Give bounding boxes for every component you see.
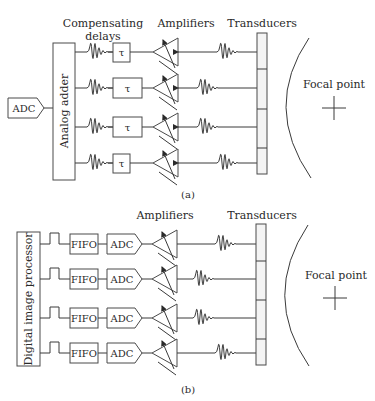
pulse-wave — [83, 118, 115, 133]
channel-row-a-1: τ — [75, 38, 257, 74]
pulse-wave — [211, 344, 243, 359]
delay-symbol: τ — [119, 158, 125, 169]
pulse-signal-icon — [40, 342, 70, 353]
panel-b: Amplifiers Transducers Focal point Digit… — [17, 209, 368, 395]
fifo-label: FIFO — [71, 348, 97, 359]
pulse-wave — [83, 154, 115, 169]
adc-label: ADC — [110, 274, 134, 285]
adc-label: ADC — [110, 239, 134, 250]
amplifier-icon — [152, 230, 177, 266]
adc-label: ADC — [110, 348, 134, 359]
channel-row-b-4: FIFO ADC — [40, 339, 256, 375]
label-compensating-delays-line2: delays — [85, 30, 121, 43]
amplifier-icon — [153, 38, 178, 74]
caption-a: (a) — [181, 189, 195, 200]
channel-row-b-2: FIFO ADC — [40, 265, 256, 301]
label-amplifiers-b: Amplifiers — [135, 209, 194, 222]
label-transducers-a: Transducers — [227, 17, 297, 30]
label-focal-point-b: Focal point — [305, 269, 368, 282]
delay-symbol: τ — [125, 83, 131, 94]
channel-row-a-2: τ — [75, 74, 257, 110]
adc-label: ADC — [110, 313, 134, 324]
pulse-wave — [189, 270, 221, 285]
pulse-wave — [213, 154, 245, 169]
focal-point-cross-b — [323, 286, 347, 310]
pulse-signal-icon — [40, 307, 70, 318]
pulse-wave — [211, 235, 243, 250]
amplifier-icon — [153, 74, 178, 110]
amplifier-icon — [153, 149, 178, 185]
analog-adder-label: Analog adder — [58, 73, 71, 149]
beamforming-diagram: Compensating delays Amplifiers Transduce… — [0, 0, 375, 401]
fifo-label: FIFO — [71, 313, 97, 324]
delay-symbol: τ — [125, 122, 131, 133]
digital-image-processor-label: Digital image processor — [22, 232, 35, 366]
pulse-signal-icon — [40, 233, 70, 244]
focal-point-cross-a — [322, 96, 346, 120]
wavefront-arc-a — [286, 38, 311, 178]
channel-row-a-4: τ — [75, 149, 257, 185]
transducer-array-a — [257, 33, 267, 174]
label-amplifiers-a: Amplifiers — [156, 17, 215, 30]
panel-a: Compensating delays Amplifiers Transduce… — [8, 17, 366, 200]
fifo-label: FIFO — [71, 274, 97, 285]
pulse-wave — [213, 43, 245, 58]
delay-symbol: τ — [119, 47, 125, 58]
pulse-wave — [193, 118, 225, 133]
pulse-wave — [83, 43, 115, 58]
caption-b: (b) — [181, 384, 195, 395]
analog-adder-block: Analog adder — [53, 43, 75, 180]
adc-label-a: ADC — [12, 103, 36, 114]
amplifier-icon — [152, 339, 177, 375]
channel-row-b-3: FIFO ADC — [40, 304, 256, 340]
channel-row-b-1: FIFO ADC — [40, 230, 256, 266]
digital-image-processor-block: Digital image processor — [17, 232, 40, 366]
label-transducers-b: Transducers — [227, 209, 297, 222]
diagram-canvas: Compensating delays Amplifiers Transduce… — [0, 0, 375, 401]
amplifier-icon — [153, 113, 178, 149]
amplifier-icon — [152, 304, 177, 340]
transducer-array-b — [256, 224, 266, 365]
pulse-wave — [193, 79, 225, 94]
amplifier-icon — [152, 265, 177, 301]
label-focal-point-a: Focal point — [303, 78, 366, 91]
wavefront-arc-b — [285, 225, 309, 366]
fifo-label: FIFO — [71, 239, 97, 250]
pulse-wave — [189, 309, 221, 324]
pulse-signal-icon — [40, 268, 70, 279]
pulse-wave — [83, 79, 115, 94]
adc-block-a: ADC — [8, 98, 44, 118]
channel-row-a-3: τ — [75, 113, 257, 149]
label-compensating-delays-line1: Compensating — [63, 17, 143, 30]
